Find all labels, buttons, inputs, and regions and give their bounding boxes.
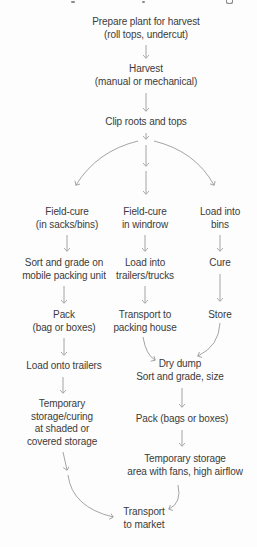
node-pack-bag-boxes-line2: (bag or boxes) [32, 322, 95, 335]
node-dry-dump: Dry dump Sort and grade, size [136, 358, 224, 383]
arrow-clip-branch-right-arc [154, 141, 214, 185]
node-sort-grade-mobile-line2: mobile packing unit [22, 270, 106, 283]
node-field-cure-sacks: Field-cure (in sacks/bins) [36, 206, 98, 231]
node-prepare-plant-line1: Prepare plant for harvest [92, 16, 200, 29]
node-load-into-bins: Load into bins [200, 206, 240, 231]
node-temp-storage-shaded-line3: at shaded or [27, 423, 97, 436]
node-temp-storage-shaded-line4: covered storage [27, 436, 97, 449]
node-field-cure-sacks-line1: Field-cure [36, 206, 98, 219]
node-transport-market-line1: Transport [123, 506, 165, 519]
node-pack-bag-boxes-line1: Pack [32, 309, 95, 322]
node-pack-bag-boxes: Pack (bag or boxes) [32, 309, 95, 334]
node-pack-bags-boxes-line1: Pack (bags or boxes) [136, 413, 229, 426]
node-pack-bags-boxes: Pack (bags or boxes) [136, 413, 229, 426]
node-prepare-plant: Prepare plant for harvest (roll tops, un… [92, 16, 200, 41]
arrow-left-to-market-arc [68, 475, 113, 517]
node-load-trailers-trucks: Load into trailers/trucks [116, 257, 174, 282]
arrow-transport-to-drydump [143, 337, 155, 360]
node-dry-dump-line2: Sort and grade, size [136, 371, 224, 384]
cropped-glyph-artifact [142, 1, 145, 3]
node-load-into-bins-line2: bins [200, 219, 240, 232]
node-transport-market-line2: to market [123, 519, 165, 532]
node-transport-market: Transport to market [123, 506, 165, 531]
node-temp-storage-fans-line1: Temporary storage [127, 453, 243, 466]
node-clip-roots-line1: Clip roots and tops [105, 116, 186, 129]
node-cure-line1: Cure [209, 257, 230, 270]
node-load-onto-trailers: Load onto trailers [26, 360, 101, 373]
node-clip-roots: Clip roots and tops [105, 116, 186, 129]
node-store: Store [208, 309, 231, 322]
arrow-clip-branch-left-arc [76, 141, 138, 185]
node-sort-grade-mobile-line1: Sort and grade on [22, 257, 106, 270]
harvest-flowchart: Prepare plant for harvest (roll tops, un… [0, 0, 257, 547]
node-temp-storage-shaded-line1: Temporary [27, 398, 97, 411]
node-transport-packing-house-line1: Transport to [113, 309, 176, 322]
node-temp-storage-fans-line2: area with fans, high airflow [127, 466, 243, 479]
node-field-cure-sacks-line2: (in sacks/bins) [36, 219, 98, 232]
arrow-tempstorage-shaded-down [63, 452, 67, 470]
cropped-glyph-artifact [71, 1, 75, 3]
node-load-onto-trailers-line1: Load onto trailers [26, 360, 101, 373]
node-temp-storage-shaded-line2: storage/curing [27, 411, 97, 424]
node-field-cure-windrow: Field-cure in windrow [122, 206, 168, 231]
node-load-trailers-trucks-line2: trailers/trucks [116, 270, 174, 283]
node-field-cure-windrow-line2: in windrow [122, 219, 168, 232]
arrow-store-to-drydump [198, 323, 220, 356]
node-cure: Cure [209, 257, 230, 270]
node-load-trailers-trucks-line1: Load into [116, 257, 174, 270]
node-temp-storage-shaded: Temporary storage/curing at shaded or co… [27, 398, 97, 448]
node-harvest-line1: Harvest [95, 63, 197, 76]
cropped-glyph-artifact [226, 0, 233, 4]
node-harvest-line2: (manual or mechanical) [95, 76, 197, 89]
node-sort-grade-mobile: Sort and grade on mobile packing unit [22, 257, 106, 282]
node-load-into-bins-line1: Load into [200, 206, 240, 219]
node-transport-packing-house: Transport to packing house [113, 309, 176, 334]
node-field-cure-windrow-line1: Field-cure [122, 206, 168, 219]
node-store-line1: Store [208, 309, 231, 322]
arrow-right-to-market-arc [169, 485, 179, 509]
node-transport-packing-house-line2: packing house [113, 322, 176, 335]
node-dry-dump-line1: Dry dump [136, 358, 224, 371]
node-harvest: Harvest (manual or mechanical) [95, 63, 197, 88]
node-prepare-plant-line2: (roll tops, undercut) [92, 29, 200, 42]
node-temp-storage-fans: Temporary storage area with fans, high a… [127, 453, 243, 478]
